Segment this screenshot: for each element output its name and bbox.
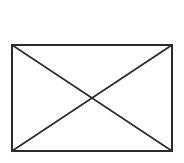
placeholder-canvas xyxy=(0,0,184,163)
crossed-box-placeholder-graphic xyxy=(0,0,184,163)
canvas-background xyxy=(0,0,184,163)
